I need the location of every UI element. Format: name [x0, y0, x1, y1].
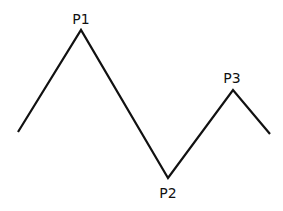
label-p2: P2 — [159, 185, 176, 201]
label-p1: P1 — [72, 11, 89, 27]
zigzag-diagram: P1 P2 P3 — [0, 0, 283, 211]
label-p3: P3 — [223, 70, 240, 86]
zigzag-line — [18, 30, 270, 178]
